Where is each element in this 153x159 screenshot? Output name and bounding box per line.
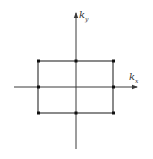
point-mid-right [112,86,115,89]
point-bottom-right [112,112,115,115]
point-top-mid [75,60,78,63]
point-bottom-left [37,112,40,115]
ky-axis-label: ky [79,9,89,23]
point-top-right [112,60,115,63]
k-space-diagram: ky kx [0,0,153,159]
kx-axis-label: kx [129,71,139,84]
point-top-left [37,60,40,63]
point-mid-left [37,86,40,89]
point-bottom-mid [75,112,78,115]
